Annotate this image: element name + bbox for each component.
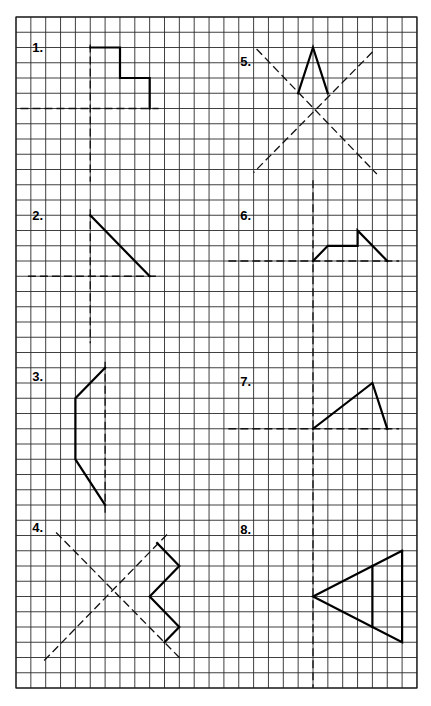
exercise-label-5: 5.	[240, 54, 251, 69]
exercise-label-4: 4.	[32, 520, 43, 535]
exercise-label-8: 8.	[240, 522, 251, 537]
exercise-label-6: 6.	[240, 208, 251, 223]
figure-7	[313, 383, 387, 429]
grid-worksheet: 1.2.3.4.5.6.7.8.	[0, 0, 431, 706]
exercise-label-1: 1.	[32, 40, 43, 55]
exercise-label-3: 3.	[32, 369, 43, 384]
mirror-line-5	[257, 49, 377, 174]
exercise-label-7: 7.	[240, 374, 251, 389]
exercise-labels: 1.2.3.4.5.6.7.8.	[32, 40, 251, 537]
exercise-label-2: 2.	[32, 208, 43, 223]
graph-paper-grid	[16, 17, 417, 688]
